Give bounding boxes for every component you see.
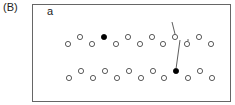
open-atom	[113, 41, 118, 46]
open-atom	[185, 75, 190, 80]
filled-atom	[101, 34, 106, 39]
open-atom	[66, 75, 71, 80]
open-atom	[197, 68, 202, 73]
open-atom	[126, 68, 131, 73]
open-atom	[184, 41, 189, 46]
open-atom	[172, 34, 177, 39]
pointer-line	[176, 40, 180, 69]
open-atom	[78, 68, 83, 73]
lattice-diagram	[0, 0, 235, 105]
open-atom	[90, 75, 95, 80]
open-atom	[89, 41, 94, 46]
pointer-line	[172, 22, 175, 34]
open-atom	[138, 75, 143, 80]
open-atom	[196, 34, 201, 39]
open-atom	[125, 34, 130, 39]
open-atom	[160, 41, 165, 46]
open-atom	[149, 34, 154, 39]
open-atom	[150, 68, 155, 73]
open-atom	[102, 68, 107, 73]
open-atom	[114, 75, 119, 80]
open-atom	[208, 41, 213, 46]
open-atom	[65, 41, 70, 46]
open-atom	[77, 34, 82, 39]
open-atom	[209, 75, 214, 80]
open-atom	[161, 75, 166, 80]
filled-atom	[173, 68, 178, 73]
open-atom	[137, 41, 142, 46]
